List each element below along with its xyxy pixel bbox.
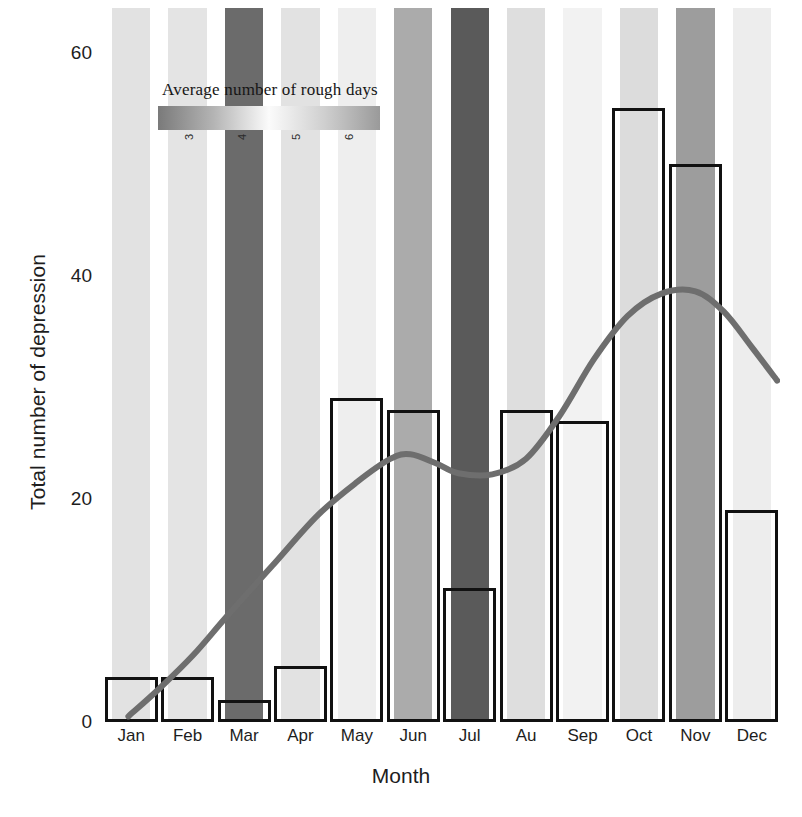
legend-tick-labels: 3456 bbox=[158, 130, 380, 152]
x-tick-label: Jul bbox=[459, 726, 481, 746]
bar bbox=[556, 421, 609, 722]
chart-figure: Total number of depression 0204060 JanFe… bbox=[0, 0, 802, 817]
bar bbox=[161, 677, 214, 722]
y-axis-ticks: 0204060 bbox=[16, 0, 92, 817]
x-axis-ticks: JanFebMarAprMayJunJulAuSepOctNovDec bbox=[103, 726, 780, 756]
x-tick-label: Au bbox=[516, 726, 537, 746]
y-tick-label: 0 bbox=[34, 711, 92, 733]
x-tick-label: Sep bbox=[567, 726, 597, 746]
bar bbox=[105, 677, 158, 722]
bar bbox=[443, 588, 496, 722]
x-axis-label: Month bbox=[0, 764, 802, 788]
bar bbox=[500, 410, 553, 722]
x-tick-label: May bbox=[341, 726, 373, 746]
legend-tick-label: 5 bbox=[290, 134, 302, 140]
bar bbox=[612, 108, 665, 722]
bar bbox=[387, 410, 440, 722]
x-tick-label: Mar bbox=[229, 726, 258, 746]
legend-title: Average number of rough days bbox=[140, 80, 400, 100]
x-tick-label: Jun bbox=[400, 726, 427, 746]
legend-tick-label: 3 bbox=[183, 134, 195, 140]
y-tick-label: 60 bbox=[34, 42, 92, 64]
bar bbox=[725, 510, 778, 722]
bar bbox=[330, 398, 383, 722]
x-tick-label: Jan bbox=[117, 726, 144, 746]
bar bbox=[274, 666, 327, 722]
x-tick-label: Feb bbox=[173, 726, 202, 746]
x-tick-label: Apr bbox=[287, 726, 313, 746]
legend-tick-label: 4 bbox=[236, 134, 248, 140]
colorbar-legend: Average number of rough days 3456 bbox=[140, 80, 400, 152]
y-tick-label: 40 bbox=[34, 265, 92, 287]
x-tick-label: Nov bbox=[680, 726, 710, 746]
x-tick-label: Dec bbox=[737, 726, 767, 746]
legend-tick-label: 6 bbox=[343, 134, 355, 140]
bar bbox=[669, 164, 722, 722]
legend-gradient-bar bbox=[158, 106, 380, 130]
y-tick-label: 20 bbox=[34, 488, 92, 510]
x-tick-label: Oct bbox=[626, 726, 652, 746]
bar bbox=[218, 700, 271, 722]
